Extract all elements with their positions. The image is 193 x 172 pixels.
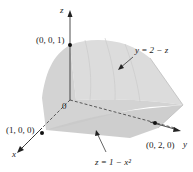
x-axis-label: x: [12, 150, 16, 159]
y-axis-label: y: [183, 140, 187, 149]
z-axis-label: z: [60, 6, 64, 15]
surface-label-z-1-x2: z = 1 − x²: [95, 158, 131, 167]
point-0-0-1: [68, 43, 72, 47]
point-1-0-0: [40, 131, 44, 135]
point-label-0-0-1: (0, 0, 1): [36, 36, 65, 45]
y-arrow-icon: [173, 127, 181, 132]
point-label-1-0-0: (1, 0, 0): [6, 126, 35, 135]
z-arrow-icon: [68, 10, 73, 17]
surface-label-y-2-z: y = 2 − z: [135, 46, 168, 55]
point-label-0-2-0: (0, 2, 0): [146, 141, 175, 150]
origin-label: 0: [62, 102, 67, 111]
point-0-2-0: [153, 121, 157, 125]
